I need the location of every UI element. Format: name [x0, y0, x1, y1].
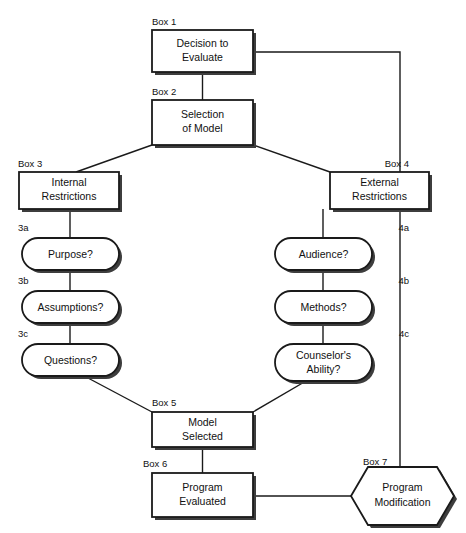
- box4-label-line1: External: [360, 176, 399, 188]
- box5-label-line2: Selected: [182, 430, 223, 442]
- node-4c[interactable]: 4c Counselor's Ability?: [275, 328, 409, 384]
- box5-label-line1: Model: [188, 416, 217, 428]
- box1-tag: Box 1: [152, 16, 176, 27]
- node-4a-label: Audience?: [299, 248, 349, 260]
- box3-tag: Box 3: [18, 158, 42, 169]
- edge-box2-box3: [76, 145, 152, 172]
- box2-label-line1: Selection: [181, 108, 224, 120]
- edge-3c-box5: [88, 378, 152, 412]
- box3-label-line2: Restrictions: [42, 190, 97, 202]
- box7-label-line2: Modification: [374, 496, 430, 508]
- flowchart-svg: Box 1 Decision to Evaluate Box 2 Selecti…: [0, 0, 466, 533]
- node-4c-label-line1: Counselor's: [296, 349, 351, 361]
- node-4b-label: Methods?: [300, 301, 346, 313]
- box2-tag: Box 2: [152, 86, 176, 97]
- node-3a-label: Purpose?: [48, 248, 93, 260]
- node-box7[interactable]: Box 7 Program Modification: [351, 456, 457, 528]
- node-4b-tag: 4b: [398, 275, 409, 286]
- box7-label-line1: Program: [382, 481, 423, 493]
- box1-label-line2: Evaluate: [182, 51, 223, 63]
- node-3c-tag: 3c: [18, 328, 28, 339]
- edge-box2-box4: [253, 145, 330, 172]
- node-3b-label: Assumptions?: [38, 301, 104, 313]
- box6-tag: Box 6: [143, 458, 167, 469]
- box6-label-line2: Evaluated: [179, 495, 226, 507]
- node-4a-tag: 4a: [398, 222, 409, 233]
- box7-tag: Box 7: [363, 456, 387, 467]
- node-box2[interactable]: Box 2 Selection of Model: [152, 86, 256, 148]
- node-box4[interactable]: Box 4 External Restrictions: [330, 158, 432, 212]
- node-4c-label-line2: Ability?: [307, 363, 341, 375]
- box1-label-line1: Decision to: [177, 37, 229, 49]
- node-box3[interactable]: Box 3 Internal Restrictions: [18, 158, 122, 212]
- box3-label-line1: Internal: [51, 176, 86, 188]
- box4-label-line2: Restrictions: [352, 190, 407, 202]
- node-3c-label: Questions?: [44, 354, 97, 366]
- node-4a[interactable]: 4a Audience?: [275, 222, 410, 273]
- box6-label-line1: Program: [182, 481, 223, 493]
- node-4c-tag: 4c: [399, 328, 409, 339]
- node-box1[interactable]: Box 1 Decision to Evaluate: [152, 16, 256, 75]
- box5-tag: Box 5: [152, 397, 176, 408]
- flowchart-diagram: Box 1 Decision to Evaluate Box 2 Selecti…: [0, 0, 466, 533]
- node-3b-tag: 3b: [18, 275, 29, 286]
- node-3a-tag: 3a: [18, 222, 29, 233]
- box4-tag: Box 4: [385, 158, 409, 169]
- node-box5[interactable]: Box 5 Model Selected: [152, 397, 256, 450]
- node-box6[interactable]: Box 6 Program Evaluated: [143, 458, 256, 520]
- edge-4c-box5: [253, 381, 306, 412]
- box2-label-line2: of Model: [182, 122, 222, 134]
- node-4b[interactable]: 4b Methods?: [275, 275, 409, 326]
